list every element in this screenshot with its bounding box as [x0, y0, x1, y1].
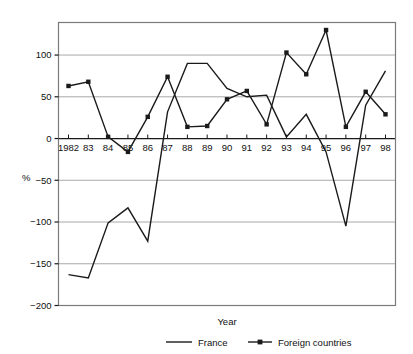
data-point-marker: [304, 72, 308, 76]
y-axis-tick-label: 0: [46, 133, 51, 144]
y-axis-tick-label: 100: [36, 49, 52, 60]
y-axis-tick-label: −50: [35, 175, 51, 186]
data-point-marker: [245, 89, 249, 93]
data-point-marker: [86, 80, 90, 84]
data-point-marker: [344, 125, 348, 129]
x-axis-tick-label: 89: [202, 142, 213, 153]
x-axis-tick-label: 97: [360, 142, 371, 153]
x-axis-tick-label: 96: [341, 142, 352, 153]
data-point-marker: [146, 115, 150, 119]
x-axis-tick-labels: 198283848586878889909192939495969798: [58, 142, 391, 153]
x-axis-tick-label: 92: [261, 142, 272, 153]
chart-background: [0, 0, 413, 354]
x-axis-tick-label: 87: [162, 142, 173, 153]
data-point-marker: [383, 112, 387, 116]
data-point-marker: [165, 75, 169, 79]
y-axis-tick-label: −150: [30, 258, 51, 269]
data-point-marker: [225, 97, 229, 101]
data-point-marker: [106, 135, 110, 139]
chart-figure: 100500−50−100−150−200 198283848586878889…: [0, 0, 413, 354]
data-point-marker: [324, 28, 328, 32]
x-axis-tick-label: 86: [142, 142, 153, 153]
x-axis-tick-label: 94: [301, 142, 312, 153]
data-point-marker: [66, 84, 70, 88]
line-chart: 100500−50−100−150−200 198283848586878889…: [0, 0, 413, 354]
data-point-marker: [264, 122, 268, 126]
y-axis-title: %: [22, 172, 31, 183]
x-axis-tick-label: 83: [83, 142, 94, 153]
y-axis-tick-label: −100: [30, 216, 51, 227]
data-point-marker: [126, 150, 130, 154]
x-axis-tick-label: 84: [103, 142, 114, 153]
x-axis-title: Year: [217, 316, 236, 327]
x-axis-tick-label: 1982: [58, 142, 79, 153]
data-point-marker: [205, 124, 209, 128]
x-axis-tick-label: 88: [182, 142, 193, 153]
y-axis-tick-label: 50: [41, 91, 52, 102]
legend-label-foreign-countries: Foreign countries: [278, 337, 352, 348]
legend-label-france: France: [198, 337, 228, 348]
x-axis-tick-label: 98: [380, 142, 391, 153]
x-axis-tick-label: 93: [281, 142, 292, 153]
x-axis-tick-label: 90: [222, 142, 233, 153]
x-axis-tick-label: 91: [242, 142, 253, 153]
y-axis-tick-label: −200: [30, 300, 51, 311]
data-point-marker: [284, 50, 288, 54]
data-point-marker: [363, 90, 367, 94]
legend-marker-icon: [258, 340, 263, 345]
data-point-marker: [185, 125, 189, 129]
